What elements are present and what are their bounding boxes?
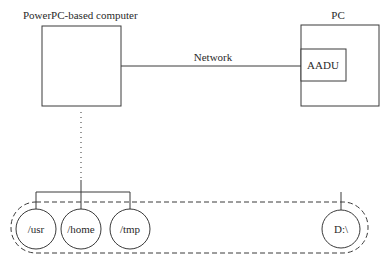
pc-label: PC	[331, 9, 344, 21]
filesystem-usr: /usr	[16, 209, 56, 249]
diagram-canvas: PowerPC-based computer Network PC AADU /…	[0, 0, 388, 263]
svg-text:/home: /home	[67, 223, 95, 235]
aadu-label: AADU	[307, 59, 339, 71]
filesystem-d-drive: D:\	[322, 192, 360, 248]
svg-text:/tmp: /tmp	[120, 223, 141, 235]
network-label: Network	[194, 51, 233, 63]
powerpc-label: PowerPC-based computer	[23, 9, 138, 21]
filesystem-tmp: /tmp	[110, 209, 150, 249]
svg-text:D:\: D:\	[334, 223, 349, 235]
powerpc-computer-box	[42, 26, 121, 106]
filesystem-home: /home	[61, 209, 101, 249]
svg-text:/usr: /usr	[28, 223, 45, 235]
